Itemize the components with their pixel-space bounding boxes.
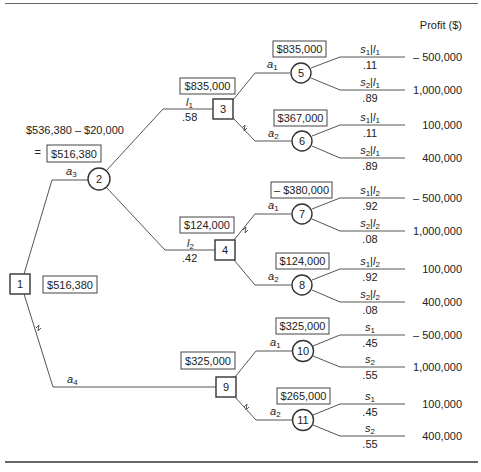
outcome-7-1 [312,198,405,209]
outcome-prob: .08 [362,304,377,316]
outcome-8-2 [312,290,405,302]
outcome-prob: .92 [362,200,377,212]
label-l2: l2 [187,237,194,251]
branch-a3 [24,180,88,274]
outcome-prob: .89 [362,160,377,172]
outcome-label: s1|l1 [360,43,380,57]
outcome-label: s2|l2 [360,288,380,302]
chance-node-2[interactable]: 2 [88,168,110,190]
outcome-prob: .55 [362,438,377,450]
profit-header: Profit ($) [420,19,462,31]
svg-text:1: 1 [17,278,23,290]
svg-text:9: 9 [223,381,229,393]
value-box-node-7: – $380,000 [271,182,332,198]
label-a2: a2 [270,405,281,419]
svg-text:$124,000: $124,000 [280,255,326,267]
outcome-label: s1 [365,390,376,404]
chance-node-8[interactable]: 8 [292,275,312,295]
decision-node-1[interactable]: 1 [10,274,30,294]
svg-text:$124,000: $124,000 [184,219,230,231]
branch-n3-a1 [233,73,290,100]
svg-text:2: 2 [96,173,102,185]
outcome-label: s1|l2 [360,255,380,269]
decision-tree: Profit ($) 1 $516,380 2 $536 [0,0,481,472]
svg-text:$835,000: $835,000 [185,80,231,92]
decision-node-9[interactable]: 9 [216,377,236,397]
outcome-label: s1|l1 [360,111,380,125]
profit-value: – 500,000 [413,329,462,341]
outcome-prob: .55 [362,369,377,381]
outcome-prob: .89 [362,92,377,104]
svg-text:$516,380: $516,380 [47,279,93,291]
profit-value: 1,000,000 [413,225,462,237]
profit-value: – 500,000 [413,51,462,63]
label-a1: a1 [267,58,278,72]
chance-node-5[interactable]: 5 [291,63,311,83]
outcome-5-1 [311,57,405,68]
chance-node-10[interactable]: 10 [293,341,314,362]
value-box-node-11: $265,000 [277,388,330,404]
branch-n4-a1 [234,214,291,240]
value-box-node-6: $367,000 [274,110,327,126]
profit-value: 1,000,000 [413,361,462,373]
svg-text:8: 8 [299,279,305,291]
value-box-node-10: $325,000 [276,318,329,334]
svg-text:11: 11 [297,414,308,426]
profit-value: 100,000 [422,263,462,275]
decision-node-3[interactable]: 3 [213,99,233,119]
value-box-node-4: $124,000 [180,217,234,233]
outcome-6-1 [312,125,405,136]
profit-value: 400,000 [422,296,462,308]
value-box-node-9: $325,000 [181,352,235,369]
outcome-11-2 [313,425,405,436]
profit-value: 100,000 [422,398,462,410]
svg-text:$325,000: $325,000 [280,320,326,332]
outcome-8-1 [312,269,405,280]
outcome-prob: .45 [362,337,377,349]
outcome-label: s2|l2 [360,217,380,231]
svg-text:6: 6 [299,135,305,147]
label-a2: a2 [268,127,279,141]
outcome-label: s1 [365,321,376,335]
outcome-label: s2 [365,422,376,436]
outcome-11-1 [313,404,405,415]
decision-node-4[interactable]: 4 [215,240,235,260]
outcome-label: s1|l2 [360,184,380,198]
value-box-node-8: $124,000 [276,253,329,269]
outcome-label: s2|l1 [360,144,380,158]
profit-value: – 500,000 [413,192,462,204]
chance-node-7[interactable]: 7 [292,204,312,224]
chance-node-11[interactable]: 11 [293,410,314,431]
outcome-5-2 [311,78,405,90]
profit-value: 400,000 [422,152,462,164]
label-a2: a2 [268,270,279,284]
outcome-prob: .11 [363,127,377,139]
svg-text:$835,000: $835,000 [277,43,323,55]
outcome-label: s2|l1 [360,76,380,90]
outcome-6-2 [312,146,405,158]
label-a1: a1 [268,199,279,213]
label-a3: a3 [66,165,77,179]
svg-text:3: 3 [220,103,226,115]
profit-value: 400,000 [422,430,462,442]
value-box-node-1: $516,380 [43,276,97,293]
prob-l1: .58 [182,111,197,123]
svg-text:10: 10 [297,345,309,357]
outcome-prob: .11 [363,59,377,71]
outcome-label: s2 [365,353,376,367]
value-box-node-5: $835,000 [273,41,326,57]
svg-text:$516,380: $516,380 [51,148,97,160]
prune-mark-icon [36,325,41,331]
value-box-node-3: $835,000 [180,78,235,94]
outcome-7-2 [312,219,405,231]
label-l1: l1 [186,96,193,110]
svg-text:5: 5 [298,67,304,79]
chance-node-6[interactable]: 6 [292,131,312,151]
branch-a4 [24,294,216,387]
svg-text:7: 7 [299,208,305,220]
label-a4: a4 [67,373,78,387]
label-a1: a1 [270,336,281,350]
prob-l2: .42 [182,252,197,264]
profit-value: 1,000,000 [413,84,462,96]
svg-text:4: 4 [222,244,228,256]
